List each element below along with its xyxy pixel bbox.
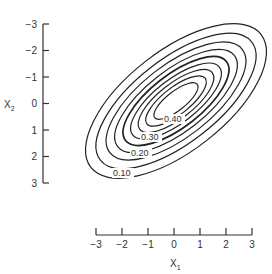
x-tick-label: 2 xyxy=(223,239,229,250)
x-tick-label: 0 xyxy=(171,239,177,250)
contour-level-0.1 xyxy=(88,21,265,181)
y-tick-label: 2 xyxy=(31,151,37,162)
contour-chart: 0.100.200.300.40 −3−2−10123 −3−2−10123 X… xyxy=(0,0,272,274)
y-tick-label: −2 xyxy=(26,45,38,56)
contour-label: 0.20 xyxy=(131,148,149,158)
x-tick-label: 3 xyxy=(249,239,255,250)
y-tick-label: −3 xyxy=(26,19,38,30)
x-axis-label: X1 xyxy=(170,258,181,271)
y-tick-label: 1 xyxy=(31,125,37,136)
contour-level-0.01 xyxy=(60,0,272,207)
contour-level-0.25 xyxy=(119,50,232,152)
contour-label: 0.40 xyxy=(164,114,182,124)
contour-ellipses xyxy=(60,0,272,207)
contour-label: 0.10 xyxy=(113,168,131,178)
x-tick-label: −1 xyxy=(142,239,154,250)
contour-level-0.2 xyxy=(110,41,243,161)
contour-level-0.15 xyxy=(99,31,253,170)
x-tick-label: −3 xyxy=(90,239,102,250)
y-tick-label: 3 xyxy=(31,178,37,189)
y-tick-label: 0 xyxy=(31,98,37,109)
x-tick-label: 1 xyxy=(197,239,203,250)
y-tick-label: −1 xyxy=(26,72,38,83)
contour-label: 0.30 xyxy=(141,132,159,142)
x-tick-label: −2 xyxy=(116,239,128,250)
y-axis-label: X2 xyxy=(4,99,15,112)
y-axis: −3−2−10123 xyxy=(26,19,49,189)
contour-level-0.05 xyxy=(74,9,272,193)
contour-level-0.3 xyxy=(129,59,223,143)
x-axis: −3−2−10123 xyxy=(90,228,255,250)
